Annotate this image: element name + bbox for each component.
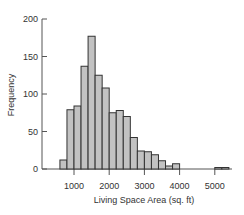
y-tick-label: 0 <box>33 164 38 174</box>
histogram-bar <box>81 66 88 169</box>
histogram-bar <box>130 138 137 170</box>
x-axis: 10002000300040005000 <box>42 169 232 191</box>
histogram-bar <box>67 110 74 169</box>
histogram-bar <box>74 106 81 169</box>
x-tick-label: 3000 <box>134 181 154 191</box>
x-tick-label: 5000 <box>205 181 225 191</box>
histogram-bar <box>158 161 165 169</box>
y-axis: 050100150200 <box>23 14 47 174</box>
histogram-bar <box>166 166 173 169</box>
y-tick-label: 200 <box>23 14 38 24</box>
x-tick-label: 2000 <box>99 181 119 191</box>
histogram-bar <box>144 152 151 169</box>
y-tick-label: 100 <box>23 89 38 99</box>
x-tick-label: 4000 <box>170 181 190 191</box>
histogram-bar <box>215 168 222 170</box>
y-axis-label: Frequency <box>6 73 16 116</box>
histogram-bar <box>137 151 144 169</box>
histogram-bar <box>173 164 180 169</box>
x-tick-label: 1000 <box>64 181 84 191</box>
histogram-bar <box>88 36 95 169</box>
y-tick-label: 150 <box>23 52 38 62</box>
histogram-chart: 050100150200 10002000300040005000 Freque… <box>0 0 244 215</box>
histogram-bar <box>222 168 229 170</box>
histogram-bar <box>151 155 158 169</box>
y-tick-label: 50 <box>28 127 38 137</box>
x-axis-label: Living Space Area (sq. ft) <box>94 195 195 205</box>
histogram-bar <box>123 117 130 170</box>
histogram-bars <box>60 36 229 169</box>
histogram-bar <box>102 88 109 169</box>
histogram-bar <box>116 111 123 170</box>
histogram-bar <box>60 160 67 169</box>
histogram-bar <box>109 113 116 169</box>
histogram-bar <box>95 75 102 169</box>
